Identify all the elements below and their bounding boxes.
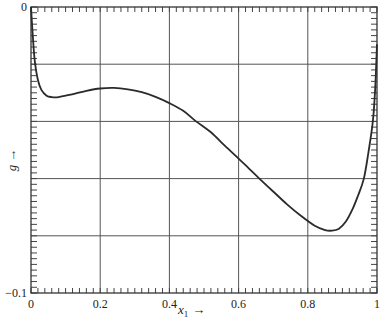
- x-tick-label: 0.8: [300, 297, 315, 311]
- x-axis-label: x1→: [177, 302, 205, 319]
- y-axis-label: g→: [4, 149, 19, 172]
- data-series-g: [31, 7, 377, 231]
- y-tick-label: −0.1: [5, 286, 27, 300]
- grid-lines: [31, 7, 377, 293]
- chart: 00.20.40.60.81 0−0.1 x1→ g→: [0, 0, 386, 325]
- x-tick-label: 0.4: [162, 297, 177, 311]
- plot-frame: [31, 7, 377, 293]
- x-tick-label: 0: [28, 297, 34, 311]
- tick-marks: [31, 7, 377, 293]
- x-tick-label: 0.6: [231, 297, 246, 311]
- x-tick-label: 0.2: [93, 297, 108, 311]
- y-tick-label: 0: [21, 0, 27, 14]
- x-tick-label: 1: [374, 297, 380, 311]
